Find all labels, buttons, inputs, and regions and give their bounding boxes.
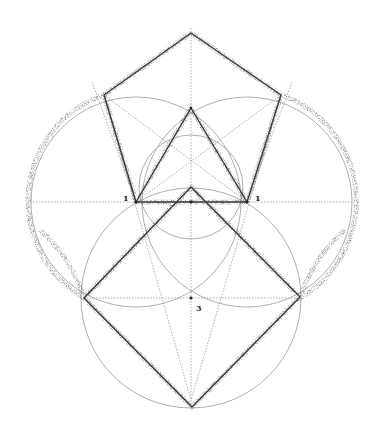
top-roof <box>104 33 281 95</box>
label-3: 3 <box>196 303 202 313</box>
point-1-left <box>134 200 137 203</box>
construction-diagram: 1 1 3 <box>0 0 379 438</box>
left-wing <box>104 95 136 202</box>
point-apex <box>190 107 193 110</box>
label-1-left: 1 <box>123 193 129 203</box>
point-1-right <box>245 200 248 203</box>
point-3 <box>190 297 193 300</box>
right-wing <box>247 95 281 202</box>
label-1-right: 1 <box>255 193 261 203</box>
guide-inner-right <box>136 95 281 202</box>
construction-circles <box>31 97 352 408</box>
stipple-shading <box>28 33 356 407</box>
guide-lines <box>30 28 352 407</box>
point-center <box>190 201 193 204</box>
